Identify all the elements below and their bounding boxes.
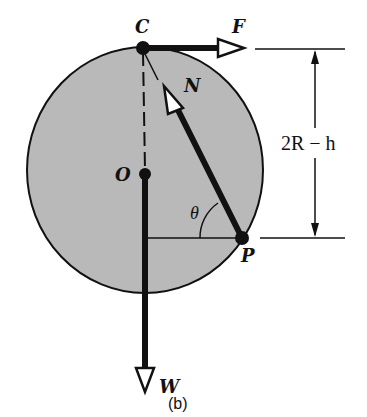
label-w: W	[159, 376, 181, 397]
label-theta: θ	[190, 203, 199, 223]
figure-caption: (b)	[168, 395, 188, 412]
point-c	[136, 41, 150, 55]
label-c: C	[135, 16, 150, 37]
label-f: F	[231, 16, 246, 37]
free-body-diagram: C F N O P W θ 2R − h (b)	[0, 0, 367, 417]
w-arrowhead-icon	[136, 368, 154, 392]
dimension-arrow-down-icon	[311, 223, 319, 237]
point-o	[139, 168, 151, 180]
f-arrowhead-icon	[218, 39, 244, 57]
label-n: N	[183, 75, 202, 96]
dimension-label: 2R − h	[281, 132, 336, 154]
label-o: O	[115, 164, 131, 185]
label-p: P	[240, 245, 255, 266]
point-p	[235, 231, 249, 245]
dimension-arrow-up-icon	[311, 50, 319, 64]
